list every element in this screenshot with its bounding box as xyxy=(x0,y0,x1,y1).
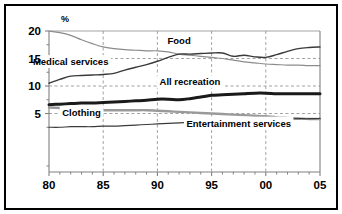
y-tick-label: 15 xyxy=(28,53,41,65)
x-tick-label: 80 xyxy=(43,179,56,191)
x-tick-label: 00 xyxy=(259,179,272,191)
series-label: Entertainment services xyxy=(186,118,291,129)
series-label: Medical services xyxy=(33,56,109,67)
line-chart: FoodMedical servicesAll recreationClothi… xyxy=(0,0,342,214)
x-tick-label: 05 xyxy=(314,179,327,191)
y-tick-label: 10 xyxy=(28,80,41,92)
x-tick-label: 90 xyxy=(151,179,164,191)
grid-layer xyxy=(49,31,320,172)
chart-figure: FoodMedical servicesAll recreationClothi… xyxy=(0,0,342,214)
x-tick-label: 85 xyxy=(97,179,110,191)
axis-layer xyxy=(49,31,320,172)
y-tick-label: 5 xyxy=(35,108,42,120)
y-axis-unit-label: % xyxy=(61,14,69,24)
y-tick-label: 20 xyxy=(28,25,41,37)
series-label: Food xyxy=(167,35,190,46)
series-label: All recreation xyxy=(160,76,221,87)
series-line xyxy=(49,93,320,105)
x-tick-label: 95 xyxy=(205,179,218,191)
series-label: Clothing xyxy=(62,107,101,118)
